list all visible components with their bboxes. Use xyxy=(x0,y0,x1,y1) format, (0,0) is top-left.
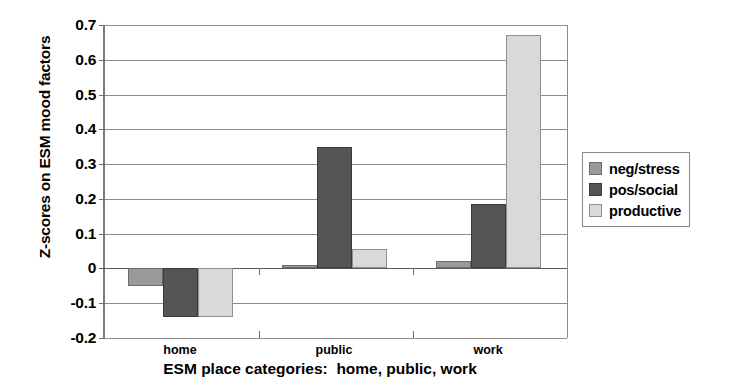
category-separator-tick xyxy=(259,268,260,275)
bar-work-pos-social xyxy=(471,204,506,268)
y-tick-label: 0 xyxy=(50,259,96,277)
legend-swatch-pos-social xyxy=(589,183,602,196)
y-axis-tick xyxy=(99,164,105,165)
legend-item-pos-social[interactable]: pos/social xyxy=(589,179,681,200)
y-axis-tick xyxy=(99,60,105,61)
y-axis-tick xyxy=(99,129,105,130)
plot-area xyxy=(103,25,568,338)
y-tick-label: 0.4 xyxy=(50,120,96,138)
bar-work-neg-stress xyxy=(436,261,471,268)
legend-item-neg-stress[interactable]: neg/stress xyxy=(589,158,681,179)
y-axis-tick-labels: 0.70.60.50.40.30.20.10-0.1-0.2 xyxy=(46,0,96,387)
gridline xyxy=(105,129,567,130)
gridline xyxy=(105,25,567,26)
y-axis-tick xyxy=(99,303,105,304)
legend-swatch-neg-stress xyxy=(589,162,602,175)
y-tick-label: -0.2 xyxy=(50,329,96,347)
category-separator-tick-baseline xyxy=(259,331,260,338)
y-tick-label: 0.3 xyxy=(50,155,96,173)
category-label-work: work xyxy=(411,343,565,357)
y-tick-label: 0.6 xyxy=(50,51,96,69)
bar-work-productive xyxy=(506,35,541,268)
y-axis-tick xyxy=(99,95,105,96)
gridline xyxy=(105,95,567,96)
chart-legend: neg/stresspos/socialproductive xyxy=(582,152,690,227)
y-tick-label: -0.1 xyxy=(50,294,96,312)
legend-label: productive xyxy=(609,203,681,219)
y-axis-tick xyxy=(99,199,105,200)
legend-label: pos/social xyxy=(609,182,678,198)
category-label-home: home xyxy=(103,343,257,357)
y-axis-tick xyxy=(99,25,105,26)
axis-bottom-line xyxy=(105,338,567,339)
gridline xyxy=(105,60,567,61)
bar-public-neg-stress xyxy=(282,265,317,268)
x-axis-title: ESM place categories: home, public, work xyxy=(60,360,580,378)
legend-swatch-productive xyxy=(589,204,602,217)
y-tick-label: 0.7 xyxy=(50,16,96,34)
y-tick-label: 0.1 xyxy=(50,225,96,243)
y-tick-label: 0.5 xyxy=(50,86,96,104)
bar-chart: Z-scores on ESM mood factors 0.70.60.50.… xyxy=(0,0,741,387)
bar-home-pos-social xyxy=(163,268,198,317)
legend-item-productive[interactable]: productive xyxy=(589,200,681,221)
bar-public-pos-social xyxy=(317,147,352,269)
bar-home-productive xyxy=(198,268,233,317)
category-label-public: public xyxy=(257,343,411,357)
y-axis-tick xyxy=(99,234,105,235)
bar-public-productive xyxy=(352,249,387,268)
bar-home-neg-stress xyxy=(128,268,163,285)
legend-label: neg/stress xyxy=(609,161,680,177)
category-separator-tick-baseline xyxy=(413,331,414,338)
category-separator-tick xyxy=(413,268,414,275)
y-tick-label: 0.2 xyxy=(50,190,96,208)
